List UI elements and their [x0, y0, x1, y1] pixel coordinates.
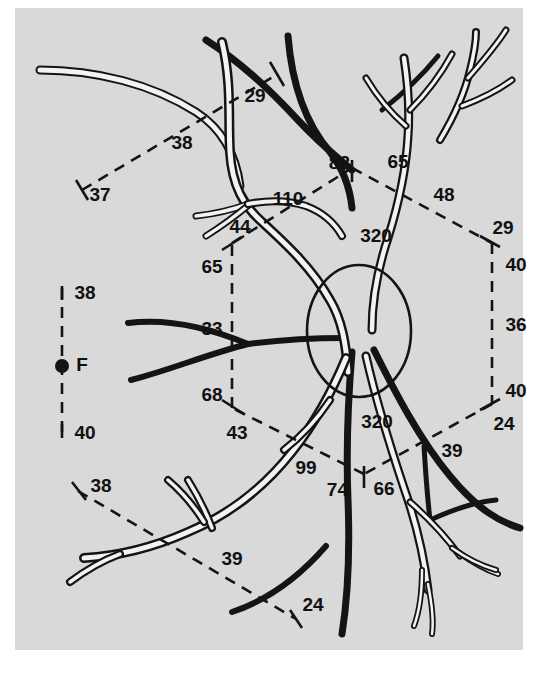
measurement-label: 24 — [493, 413, 515, 434]
measurement-label: 44 — [229, 216, 251, 237]
measurement-label: 66 — [373, 478, 394, 499]
measurement-label: 40 — [505, 380, 526, 401]
measurement-label: 110 — [273, 188, 304, 209]
measurement-label: 36 — [505, 314, 526, 335]
measurement-label: 65 — [387, 151, 409, 172]
measurement-label: 320 — [360, 225, 392, 246]
measurement-label: 68 — [201, 384, 222, 405]
measurement-label: F — [76, 354, 88, 375]
measurement-label: 40 — [505, 254, 526, 275]
retinal-diagram-figure: 2938378265481104432029654033366840433202… — [0, 0, 549, 683]
measurement-label: 74 — [327, 479, 349, 500]
diagram-canvas: 2938378265481104432029654033366840433202… — [0, 0, 549, 683]
measurement-label: 320 — [361, 411, 393, 432]
measurement-label: 65 — [201, 256, 223, 277]
measurement-label: 39 — [221, 548, 242, 569]
measurement-label: 39 — [441, 440, 462, 461]
measurement-label: 43 — [226, 422, 247, 443]
measurement-label: 82 — [329, 152, 350, 173]
fovea-dot — [55, 359, 69, 373]
measurement-label: 38 — [74, 282, 95, 303]
measurement-label: 24 — [302, 594, 324, 615]
measurement-label: 37 — [89, 184, 110, 205]
measurement-label: 48 — [433, 184, 454, 205]
measurement-label: 99 — [295, 457, 316, 478]
measurement-label: 38 — [171, 132, 192, 153]
measurement-label: 40 — [74, 422, 95, 443]
measurement-label: 38 — [90, 475, 111, 496]
measurement-label: 33 — [201, 318, 222, 339]
measurement-label: 29 — [244, 85, 265, 106]
measurement-label: 29 — [492, 217, 513, 238]
